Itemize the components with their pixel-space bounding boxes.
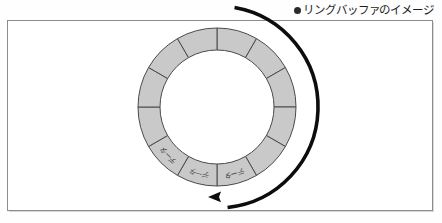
- ring-buffer-figure: リングバッファのイメージ データデータデータ: [0, 0, 442, 223]
- ring-buffer-diagram: データデータデータ: [0, 0, 442, 223]
- rotation-arrow-head: [208, 191, 221, 202]
- ring-segments: データデータデータ: [138, 28, 296, 186]
